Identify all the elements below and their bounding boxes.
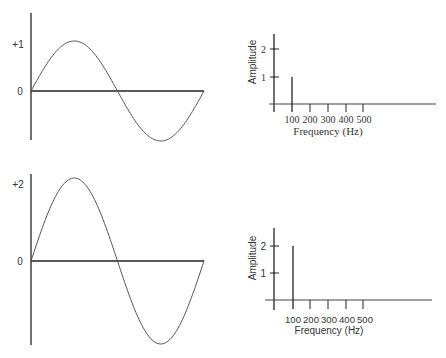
bottom-spectrum-ylabel-2: 2 — [260, 241, 266, 252]
bottom-spectrum-xlabel: Frequency (Hz) — [295, 325, 364, 336]
bottom-x-label-100: 100 — [285, 314, 301, 325]
bottom-x-label-500: 500 — [357, 314, 373, 325]
figure: +1 0 +2 0 2 1 Amplitude 100 200 300 400 … — [0, 0, 446, 358]
bottom-spectrum-ylabel: Amplitude — [247, 235, 258, 280]
top-x-label-100: 100 — [285, 114, 300, 125]
bottom-x-label-200: 200 — [303, 314, 319, 325]
bottom-wave-plot: +2 0 — [12, 174, 204, 345]
top-wave-peak-label: +1 — [12, 39, 24, 50]
top-x-label-200: 200 — [303, 114, 318, 125]
bottom-wave-peak-label: +2 — [12, 179, 24, 190]
top-spectrum-plot: 2 1 Amplitude 100 200 300 400 500 Freque… — [247, 34, 436, 138]
top-spectrum-ylabel: Amplitude — [247, 39, 258, 84]
top-wave-plot: +1 0 — [12, 13, 204, 141]
top-wave-zero-label: 0 — [17, 86, 23, 97]
top-spectrum-xlabel: Frequency (Hz) — [293, 125, 363, 138]
top-spectrum-ylabel-1: 1 — [261, 72, 266, 83]
bottom-x-label-300: 300 — [321, 314, 337, 325]
bottom-x-label-400: 400 — [339, 314, 355, 325]
top-x-label-400: 400 — [339, 114, 354, 125]
bottom-wave-zero-label: 0 — [17, 256, 23, 267]
bottom-spectrum-plot: 2 1 Amplitude 100 200 300 400 500 Freque… — [247, 228, 432, 336]
bottom-spectrum-ylabel-1: 1 — [260, 268, 266, 279]
top-x-label-300: 300 — [321, 114, 336, 125]
top-x-label-500: 500 — [357, 114, 372, 125]
top-spectrum-ylabel-2: 2 — [261, 44, 266, 55]
